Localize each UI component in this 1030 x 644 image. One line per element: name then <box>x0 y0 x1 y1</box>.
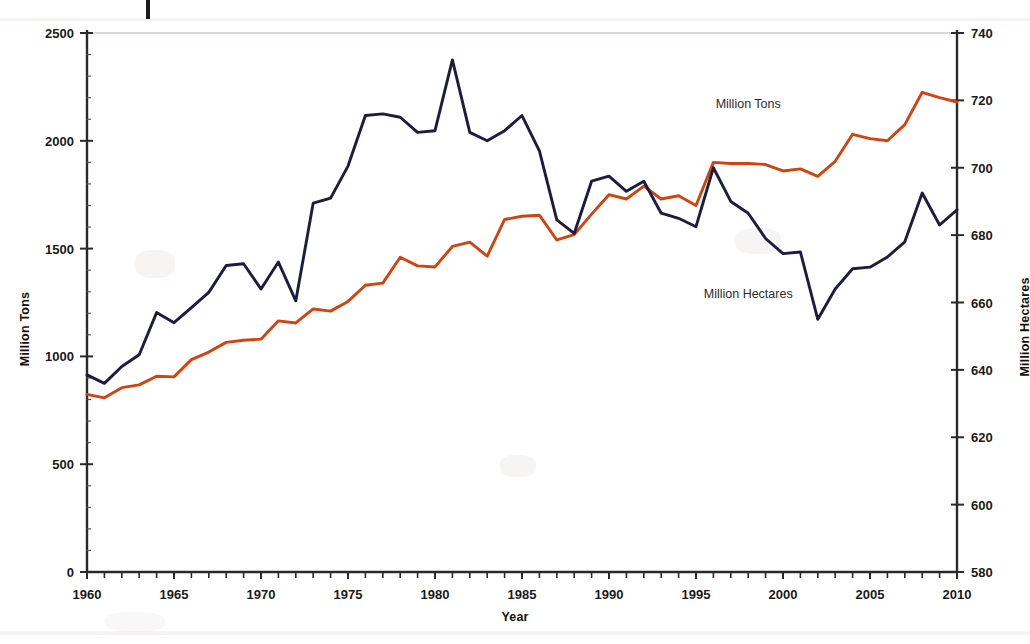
y-axis-right-title: Million Hectares <box>1018 257 1030 397</box>
y-axis-right-tick-label: 740 <box>971 26 993 41</box>
y-axis-right-tick-label: 680 <box>971 228 993 243</box>
x-axis-tick-label: 1985 <box>508 587 537 602</box>
x-axis-tick-label: 1990 <box>595 587 624 602</box>
x-axis-tick-label: 1970 <box>247 587 276 602</box>
x-axis-tick-label: 1980 <box>421 587 450 602</box>
x-axis-tick-label: 1975 <box>334 587 363 602</box>
x-axis-tick-label: 2005 <box>856 587 885 602</box>
y-axis-right-tick-label: 640 <box>971 363 993 378</box>
x-axis-tick-label: 1995 <box>682 587 711 602</box>
y-axis-right-tick-label: 700 <box>971 161 993 176</box>
x-axis-tick-label: 1960 <box>73 587 102 602</box>
series-annotation-million-tons: Million Tons <box>716 97 781 111</box>
series-line-million-hectares <box>87 60 957 383</box>
scan-artifact-tick <box>146 0 150 19</box>
line-chart: 1960196519701975198019851990199520002005… <box>0 0 1030 644</box>
series-annotation-million-hectares: Million Hectares <box>704 287 793 301</box>
series-line-million-tons <box>87 92 957 398</box>
x-axis-tick-label: 2010 <box>943 587 972 602</box>
y-axis-right-tick-label: 660 <box>971 296 993 311</box>
y-axis-left-tick-label: 2000 <box>45 134 74 149</box>
y-axis-right-tick-label: 620 <box>971 430 993 445</box>
y-axis-left-tick-label: 0 <box>67 565 74 580</box>
x-axis-tick-label: 2000 <box>769 587 798 602</box>
y-axis-left-title: Million Tons <box>18 269 32 389</box>
x-axis-tick-label: 1965 <box>160 587 189 602</box>
x-axis-title: Year <box>0 610 1030 624</box>
y-axis-left-tick-label: 500 <box>52 457 74 472</box>
y-axis-right-tick-label: 600 <box>971 498 993 513</box>
y-axis-right-tick-label: 580 <box>971 565 993 580</box>
y-axis-right-tick-label: 720 <box>971 93 993 108</box>
y-axis-left-tick-label: 1000 <box>45 349 74 364</box>
chart-canvas: 1960196519701975198019851990199520002005… <box>0 0 1030 644</box>
y-axis-left-tick-label: 1500 <box>45 242 74 257</box>
y-axis-left-tick-label: 2500 <box>45 26 74 41</box>
